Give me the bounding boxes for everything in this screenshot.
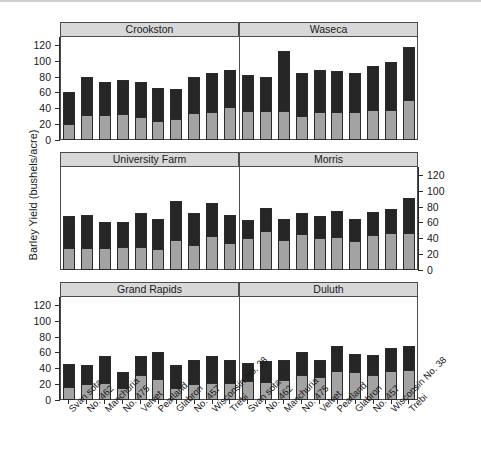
bar-segment-lower	[81, 248, 93, 270]
x-axis-label: Peatland	[152, 405, 164, 461]
bar	[170, 89, 182, 140]
x-axis-label: No. 457	[188, 405, 200, 461]
y-axis-tick	[55, 92, 60, 93]
bar	[385, 209, 397, 270]
bar	[403, 198, 415, 270]
bars-morris	[239, 167, 418, 270]
bar-segment-upper	[188, 213, 200, 245]
bar-segment-upper	[206, 203, 218, 236]
x-axis-label: Wisconsin No. 38	[385, 405, 397, 461]
bar-segment-lower	[135, 117, 147, 140]
bar-segment-lower	[63, 248, 75, 270]
bar-segment-upper	[63, 364, 75, 388]
y-axis-tick-label: 20	[39, 119, 51, 129]
panel-crookston	[60, 37, 239, 140]
y-axis-tick-label: 20	[427, 249, 439, 259]
bar-segment-upper	[314, 360, 326, 377]
y-axis-tick	[418, 175, 423, 176]
panel-row-1: University Farm Morris	[60, 152, 418, 270]
y-axis-tick-label: 40	[39, 103, 51, 113]
y-axis-tick	[55, 108, 60, 109]
bar-segment-lower	[99, 115, 111, 140]
bar-segment-upper	[135, 82, 147, 117]
bar	[81, 215, 93, 270]
bar	[367, 212, 379, 270]
y-axis-tick-label: 40	[427, 233, 439, 243]
bar-segment-lower	[152, 121, 164, 140]
y-axis-tick-label: 120	[33, 40, 51, 50]
y-axis-tick	[418, 270, 423, 271]
bar-segment-lower	[170, 119, 182, 140]
bar-segment-upper	[331, 346, 343, 371]
bar-segment-lower	[206, 112, 218, 140]
bar-segment-upper	[278, 360, 290, 380]
bar-segment-lower	[367, 235, 379, 270]
bars-crookston	[60, 37, 239, 140]
bar	[135, 82, 147, 140]
bar-segment-lower	[278, 111, 290, 140]
y-axis-tick-label: 120	[33, 300, 51, 310]
bar-segment-upper	[81, 77, 93, 115]
bar-segment-upper	[349, 73, 361, 112]
bar	[242, 220, 254, 270]
bar	[206, 203, 218, 270]
x-axis-label: Manchuria	[99, 405, 111, 461]
bar	[278, 219, 290, 270]
bar-segment-upper	[81, 215, 93, 247]
panel-strip-duluth: Duluth	[239, 282, 418, 297]
bar	[278, 51, 290, 140]
x-axis-label: No. 475	[117, 405, 129, 461]
bar-segment-upper	[260, 208, 272, 231]
bar-segment-upper	[296, 213, 308, 234]
panel-row-0: Crookston Waseca	[60, 22, 418, 140]
bar	[63, 92, 75, 140]
y-axis-tick-label: 80	[39, 332, 51, 342]
y-axis-row-1: 020406080100120	[418, 167, 478, 270]
bar	[331, 211, 343, 270]
bar-segment-upper	[99, 222, 111, 247]
bar-segment-lower	[385, 110, 397, 140]
y-axis-tick-label: 60	[427, 217, 439, 227]
y-axis-tick-label: 20	[39, 379, 51, 389]
bar-segment-upper	[188, 360, 200, 385]
panel-strip-waseca: Waseca	[239, 22, 418, 37]
y-axis-tick-label: 60	[39, 87, 51, 97]
bar	[224, 215, 236, 270]
bar-segment-lower	[349, 112, 361, 140]
y-axis-tick-label: 100	[33, 56, 51, 66]
bar-segment-upper	[278, 51, 290, 110]
bar	[224, 70, 236, 141]
bar-segment-upper	[63, 216, 75, 248]
panel-morris	[239, 167, 418, 270]
bar	[296, 73, 308, 140]
bar-segment-upper	[242, 75, 254, 111]
bar-segment-upper	[170, 89, 182, 119]
bar-segment-upper	[331, 211, 343, 236]
bar-segment-upper	[385, 348, 397, 372]
y-axis-tick	[55, 45, 60, 46]
bar	[314, 216, 326, 270]
bar-segment-upper	[260, 77, 272, 112]
y-axis-tick-label: 0	[45, 395, 51, 405]
y-axis-tick	[418, 207, 423, 208]
y-axis-tick	[55, 368, 60, 369]
bar-segment-lower	[278, 240, 290, 270]
bar-segment-lower	[63, 124, 75, 140]
bar-segment-lower	[260, 111, 272, 140]
bar	[81, 77, 93, 140]
bar-segment-lower	[117, 114, 129, 140]
bar-segment-lower	[367, 110, 379, 140]
bar-segment-lower	[135, 247, 147, 270]
y-axis-tick	[55, 77, 60, 78]
x-axis-label: Velvet	[135, 405, 147, 461]
bar	[135, 213, 147, 270]
bar-segment-lower	[403, 233, 415, 270]
x-axis-label: Velvet	[314, 405, 326, 461]
bar-segment-lower	[152, 249, 164, 270]
bar-segment-lower	[314, 238, 326, 270]
bar-segment-upper	[117, 222, 129, 247]
bar-segment-lower	[206, 236, 218, 270]
bar-segment-upper	[188, 77, 200, 113]
bar	[188, 77, 200, 140]
y-axis-tick-label: 0	[427, 265, 433, 275]
